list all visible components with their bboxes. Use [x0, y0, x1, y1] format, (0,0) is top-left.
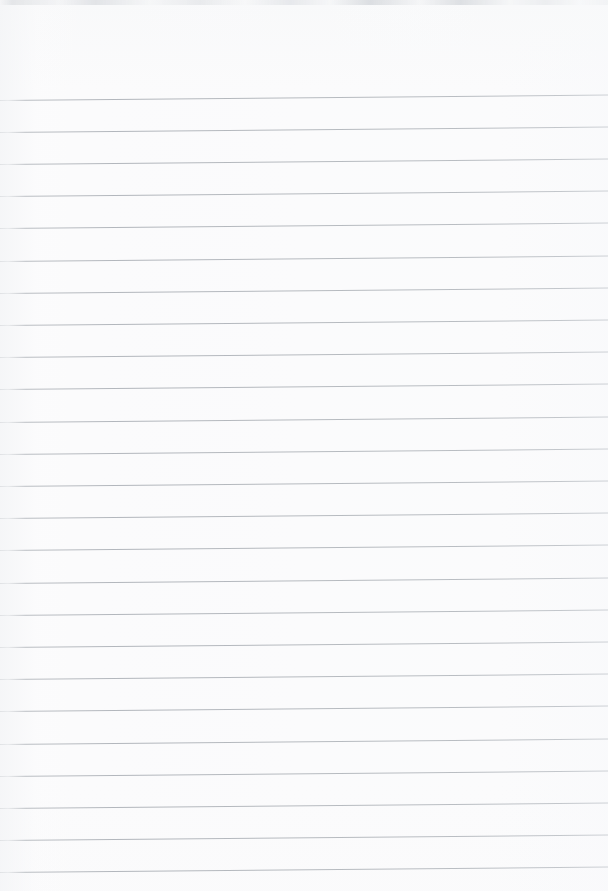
ruled-line — [0, 480, 608, 486]
top-edge-scanner-smudge — [0, 0, 608, 5]
ruled-line — [0, 802, 608, 808]
paper-texture — [0, 0, 608, 891]
ruled-line — [0, 352, 608, 358]
ruled-line — [0, 609, 608, 615]
ruled-line — [0, 770, 608, 776]
ruled-line — [0, 384, 608, 390]
scanned-page — [0, 0, 608, 891]
ruled-line — [0, 158, 608, 164]
ruled-lines-layer — [0, 0, 608, 891]
ruled-line — [0, 416, 608, 422]
ruled-line — [0, 706, 608, 712]
ruled-line — [0, 126, 608, 132]
ruled-line — [0, 545, 608, 551]
ruled-line — [0, 867, 608, 873]
ruled-line — [0, 319, 608, 325]
ruled-line — [0, 448, 608, 454]
ruled-line — [0, 674, 608, 680]
ruled-line — [0, 191, 608, 197]
ruled-line — [0, 738, 608, 744]
ruled-line — [0, 513, 608, 519]
ruled-line — [0, 223, 608, 229]
ruled-line — [0, 641, 608, 647]
ruled-line — [0, 255, 608, 261]
ruled-line — [0, 94, 608, 100]
ruled-line — [0, 287, 608, 293]
ruled-line — [0, 835, 608, 841]
ruled-line — [0, 577, 608, 583]
